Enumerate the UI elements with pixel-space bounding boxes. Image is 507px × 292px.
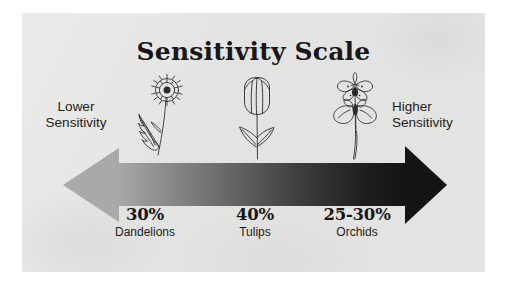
axis-label-lower: Lower Sensitivity	[30, 99, 122, 131]
axis-label-lower-line1: Lower	[30, 99, 122, 115]
arrow-shaft	[117, 163, 407, 206]
data-label-dandelions: 30% Dandelions	[90, 205, 200, 239]
orchid-flower-icon	[322, 69, 388, 163]
data-percent: 25-30%	[297, 205, 417, 224]
axis-label-higher: Higher Sensitivity	[388, 99, 480, 131]
data-label-orchids: 25-30% Orchids	[297, 205, 417, 239]
data-name-text: Orchids	[297, 225, 417, 239]
data-percent: 30%	[90, 205, 200, 224]
axis-label-higher-line1: Higher	[392, 99, 480, 115]
tulip-flower-icon	[227, 75, 287, 163]
infographic-card: Sensitivity Scale Lower Sensitivity High…	[22, 13, 485, 272]
page-title: Sensitivity Scale	[22, 37, 485, 66]
infographic-canvas: Sensitivity Scale Lower Sensitivity High…	[0, 0, 507, 292]
data-name-text: Tulips	[200, 225, 310, 239]
data-label-tulips: 40% Tulips	[200, 205, 310, 239]
data-name-text: Dandelions	[90, 225, 200, 239]
axis-label-higher-line2: Sensitivity	[392, 115, 480, 131]
data-percent: 40%	[200, 205, 310, 224]
dandelion-flower-icon	[128, 71, 190, 163]
axis-label-lower-line2: Sensitivity	[30, 115, 122, 131]
